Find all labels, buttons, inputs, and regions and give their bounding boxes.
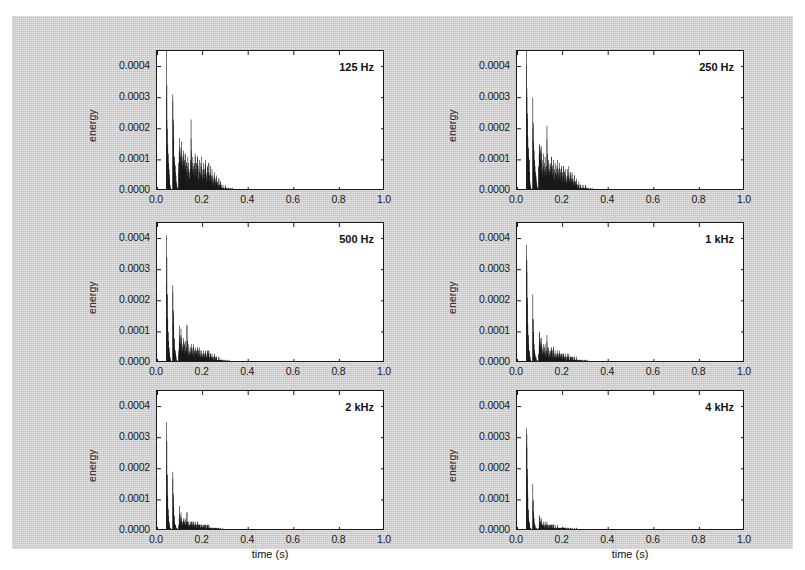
- panel-title-1khz: 1 kHz: [624, 233, 734, 245]
- x-tick-label: 0.2: [186, 193, 218, 205]
- y-tick-label: 0.0003: [454, 430, 510, 442]
- y-tick-label: 0.0004: [454, 399, 510, 411]
- x-tick-label: 0.6: [637, 533, 669, 545]
- x-tick-label: 1.0: [728, 193, 760, 205]
- y-tick-label: 0.0003: [94, 90, 150, 102]
- x-tick-label: 1.0: [728, 533, 760, 545]
- x-tick-label: 1.0: [368, 193, 400, 205]
- panel-250hz: energy 250 Hz 0.00000.00010.00020.00030.…: [444, 34, 744, 209]
- figure-canvas: energy 125 Hz 0.00000.00010.00020.00030.…: [12, 16, 793, 549]
- y-tick-label: 0.0001: [454, 492, 510, 504]
- x-tick-label: 0.2: [546, 533, 578, 545]
- panel-title-2khz: 2 kHz: [264, 401, 374, 413]
- y-tick-label: 0.0001: [454, 324, 510, 336]
- x-tick-label: 0.4: [231, 193, 263, 205]
- y-tick-label: 0.0004: [94, 231, 150, 243]
- y-tick-label: 0.0004: [454, 59, 510, 71]
- x-tick-label: 0.8: [682, 193, 714, 205]
- y-tick-label: 0.0003: [94, 430, 150, 442]
- y-tick-label: 0.0002: [454, 121, 510, 133]
- panel-125hz: energy 125 Hz 0.00000.00010.00020.00030.…: [84, 34, 384, 209]
- panel-title-125hz: 125 Hz: [264, 61, 374, 73]
- x-tick-label: 1.0: [368, 533, 400, 545]
- panel-4khz: energy 4 kHz time (s) 0.00000.00010.0002…: [444, 374, 744, 570]
- x-tick-label: 0.4: [231, 533, 263, 545]
- y-tick-label: 0.0002: [94, 293, 150, 305]
- panel-title-500hz: 500 Hz: [264, 233, 374, 245]
- y-tick-label: 0.0003: [454, 262, 510, 274]
- y-tick-label: 0.0003: [454, 90, 510, 102]
- panel-title-250hz: 250 Hz: [624, 61, 734, 73]
- x-tick-label: 0.0: [500, 533, 532, 545]
- x-tick-label: 0.8: [682, 533, 714, 545]
- panel-1khz: energy 1 kHz 0.00000.00010.00020.00030.0…: [444, 206, 744, 381]
- x-tick-label: 0.8: [322, 533, 354, 545]
- panel-title-4khz: 4 kHz: [624, 401, 734, 413]
- y-tick-label: 0.0002: [94, 461, 150, 473]
- x-tick-label: 0.4: [591, 533, 623, 545]
- y-tick-label: 0.0001: [94, 492, 150, 504]
- y-tick-label: 0.0001: [94, 324, 150, 336]
- x-tick-label: 0.0: [140, 193, 172, 205]
- x-tick-label: 0.2: [546, 193, 578, 205]
- x-tick-label: 0.0: [500, 193, 532, 205]
- panel-2khz: energy 2 kHz time (s) 0.00000.00010.0002…: [84, 374, 384, 570]
- x-axis-label-4khz: time (s): [570, 548, 690, 560]
- y-tick-label: 0.0004: [454, 231, 510, 243]
- y-tick-label: 0.0001: [94, 152, 150, 164]
- x-tick-label: 0.0: [140, 533, 172, 545]
- x-tick-label: 0.2: [186, 533, 218, 545]
- y-tick-label: 0.0002: [454, 461, 510, 473]
- x-tick-label: 0.6: [277, 533, 309, 545]
- y-tick-label: 0.0002: [94, 121, 150, 133]
- y-tick-label: 0.0001: [454, 152, 510, 164]
- y-tick-label: 0.0004: [94, 59, 150, 71]
- x-tick-label: 0.6: [637, 193, 669, 205]
- y-tick-label: 0.0003: [94, 262, 150, 274]
- panel-500hz: energy 500 Hz 0.00000.00010.00020.00030.…: [84, 206, 384, 381]
- x-tick-label: 0.8: [322, 193, 354, 205]
- x-tick-label: 0.4: [591, 193, 623, 205]
- x-tick-label: 0.6: [277, 193, 309, 205]
- y-tick-label: 0.0002: [454, 293, 510, 305]
- x-axis-label-2khz: time (s): [210, 548, 330, 560]
- y-tick-label: 0.0004: [94, 399, 150, 411]
